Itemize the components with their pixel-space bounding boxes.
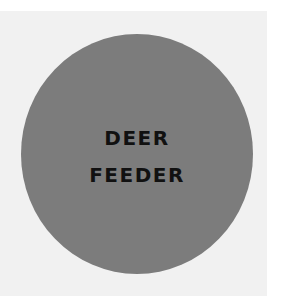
badge-label-line-1: DEER [104, 128, 169, 148]
badge-label-line-2: FEEDER [89, 165, 185, 185]
deer-feeder-badge: DEER FEEDER [21, 34, 253, 274]
